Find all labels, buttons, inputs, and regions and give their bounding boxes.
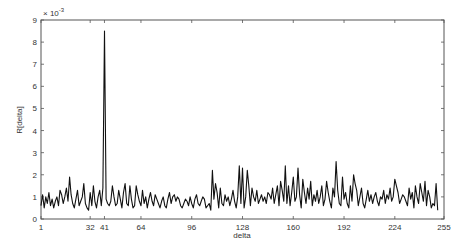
x-tick-label: 41 (100, 223, 109, 232)
x-tick-label: 255 (437, 223, 451, 232)
y-tick-label: 4 (33, 127, 38, 136)
y-axis-label: R[delta] (15, 106, 24, 134)
y-tick-label: 0 (33, 215, 38, 224)
line-chart: 0123456789 132416496128160192224255 × 10… (0, 0, 470, 245)
y-tick-label: 6 (33, 82, 38, 91)
y-tick-label: 8 (33, 38, 38, 47)
plot-area (41, 20, 444, 219)
x-tick-label: 160 (287, 223, 301, 232)
x-tick-label: 1 (39, 223, 44, 232)
y-tick-label: 7 (33, 60, 38, 69)
y-tick-label: 3 (33, 149, 38, 158)
y-tick-label: 9 (33, 16, 38, 25)
y-multiplier: × 10-3 (43, 7, 65, 18)
x-tick-label: 32 (86, 223, 95, 232)
x-tick-label: 64 (137, 223, 146, 232)
y-tick-label: 2 (33, 171, 38, 180)
y-tick-label: 5 (33, 104, 38, 113)
x-tick-label: 192 (337, 223, 351, 232)
x-tick-label: 96 (187, 223, 196, 232)
x-axis-label: delta (233, 231, 251, 240)
y-tick-label: 1 (33, 193, 38, 202)
x-tick-label: 224 (388, 223, 402, 232)
